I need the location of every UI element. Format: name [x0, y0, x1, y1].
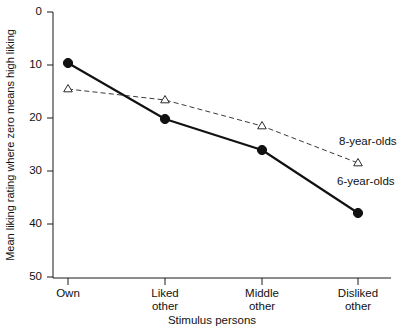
series-label-6-year-olds: 6-year-olds	[337, 175, 395, 187]
x-tick-label-disliked-other-line2: other	[345, 300, 371, 312]
x-tick-label-liked-other-line2: other	[152, 300, 178, 312]
x-tick-label-liked-other-line1: Liked	[151, 287, 179, 299]
x-tick-marks	[68, 278, 358, 285]
y-tick-label-30: 30	[29, 164, 42, 176]
series-line-8-year-olds	[68, 89, 358, 163]
y-tick-label-20: 20	[29, 111, 42, 123]
x-tick-label-middle-other-line2: other	[249, 300, 275, 312]
y-tick-label-10: 10	[29, 58, 42, 70]
data-point-6-year-olds-own	[63, 58, 72, 67]
y-tick-label-50: 50	[29, 270, 42, 282]
line-chart: 0 10 20 30 40 50 Own Liked other Middle …	[0, 0, 407, 329]
y-tick-marks	[47, 12, 53, 277]
data-point-8-year-olds-liked-other	[161, 96, 170, 103]
x-tick-label-disliked-other-line1: Disliked	[338, 287, 378, 299]
data-point-8-year-olds-own	[64, 85, 73, 92]
data-point-6-year-olds-disliked-other	[353, 208, 362, 217]
chart-figure: 0 10 20 30 40 50 Own Liked other Middle …	[0, 0, 407, 329]
x-tick-label-own: Own	[56, 287, 80, 299]
series-label-8-year-olds: 8-year-olds	[339, 135, 397, 147]
data-point-8-year-olds-middle-other	[258, 122, 267, 129]
series-markers-8-year-olds	[64, 85, 363, 166]
x-tick-label-middle-other-line1: Middle	[245, 287, 279, 299]
y-axis-title: Mean liking rating where zero means high…	[4, 29, 16, 261]
series-markers-6-year-olds	[63, 58, 362, 217]
data-point-6-year-olds-middle-other	[257, 145, 266, 154]
cut-off-caption	[0, 320, 407, 329]
series-line-6-year-olds	[68, 63, 358, 213]
y-tick-label-40: 40	[29, 217, 42, 229]
y-tick-label-0: 0	[36, 5, 42, 17]
data-point-6-year-olds-liked-other	[160, 114, 169, 123]
